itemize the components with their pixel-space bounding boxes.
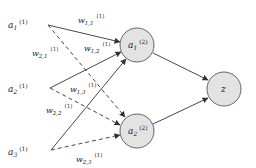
network-diagram: a1(1) a2(1) a3(1) a1(2) a2(2) z w1,1(1) … — [0, 0, 256, 168]
weight-w11: w1,1(1) — [78, 13, 104, 26]
weight-w13: w1,3(1) — [70, 82, 96, 95]
label-a2-layer1: a2(1) — [8, 82, 28, 95]
weight-w22: w2,2(1) — [46, 103, 72, 116]
edge-w21 — [48, 25, 125, 117]
edge-w11 — [48, 25, 120, 42]
weight-w23: w2,3(1) — [76, 152, 102, 165]
edge-h2-z — [153, 98, 208, 124]
label-a1-layer1: a1(1) — [8, 18, 28, 31]
weight-w21: w2,1(1) — [32, 46, 58, 59]
label-z: z — [220, 84, 226, 94]
weight-w12: w1,2(1) — [84, 41, 110, 54]
edge-h1-z — [153, 53, 208, 80]
label-a3-layer1: a3(1) — [8, 145, 28, 158]
